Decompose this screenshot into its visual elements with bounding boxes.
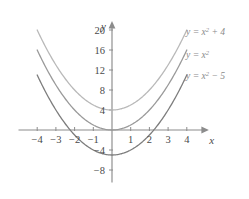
legend-layer: y = x2 + 4y = x2y = x2 − 5 [185, 26, 225, 81]
legend-equation-suffix: − 5 [209, 70, 225, 81]
y-tick-label: 4 [100, 105, 106, 116]
legend-equation-base: y = x [185, 70, 207, 81]
y-tick-label: 12 [95, 65, 106, 76]
axis-names-layer: xy [100, 20, 214, 147]
x-tick-label: 3 [165, 134, 170, 145]
x-tick-label: −4 [32, 134, 44, 145]
figure-container: −4−3−2−1123420161284−4−8 xy y = x2 + 4y … [0, 0, 249, 199]
x-tick-label: 1 [128, 134, 133, 145]
x-tick-label: −3 [50, 134, 61, 145]
parabola-plot: −4−3−2−1123420161284−4−8 xy y = x2 + 4y … [0, 0, 249, 199]
axes-layer [19, 21, 209, 183]
y-axis-label: y [100, 20, 106, 32]
x-tick-label: −1 [88, 134, 99, 145]
x-axis-arrow-icon [201, 127, 209, 134]
y-tick-label: 8 [100, 85, 105, 96]
tick-labels-layer: −4−3−2−1123420161284−4−8 [32, 25, 191, 176]
legend-equation-suffix: + 4 [209, 26, 225, 37]
legend-label-x2-minus-5: y = x2 − 5 [185, 70, 225, 81]
y-tick-label: −4 [94, 145, 106, 156]
x-axis-label: x [208, 134, 214, 146]
x-tick-label: 2 [147, 134, 152, 145]
legend-equation-base: y = x [185, 26, 207, 37]
y-axis-arrow-icon [109, 21, 116, 29]
x-tick-label: 4 [184, 134, 190, 145]
legend-equation-exponent: 2 [206, 49, 210, 56]
legend-equation-base: y = x [185, 49, 207, 60]
legend-label-x2: y = x2 [185, 49, 210, 60]
x-tick-label: −2 [69, 134, 80, 145]
legend-label-x2-plus-4: y = x2 + 4 [185, 26, 225, 37]
y-tick-label: −8 [94, 165, 105, 176]
y-tick-label: 16 [95, 45, 106, 56]
